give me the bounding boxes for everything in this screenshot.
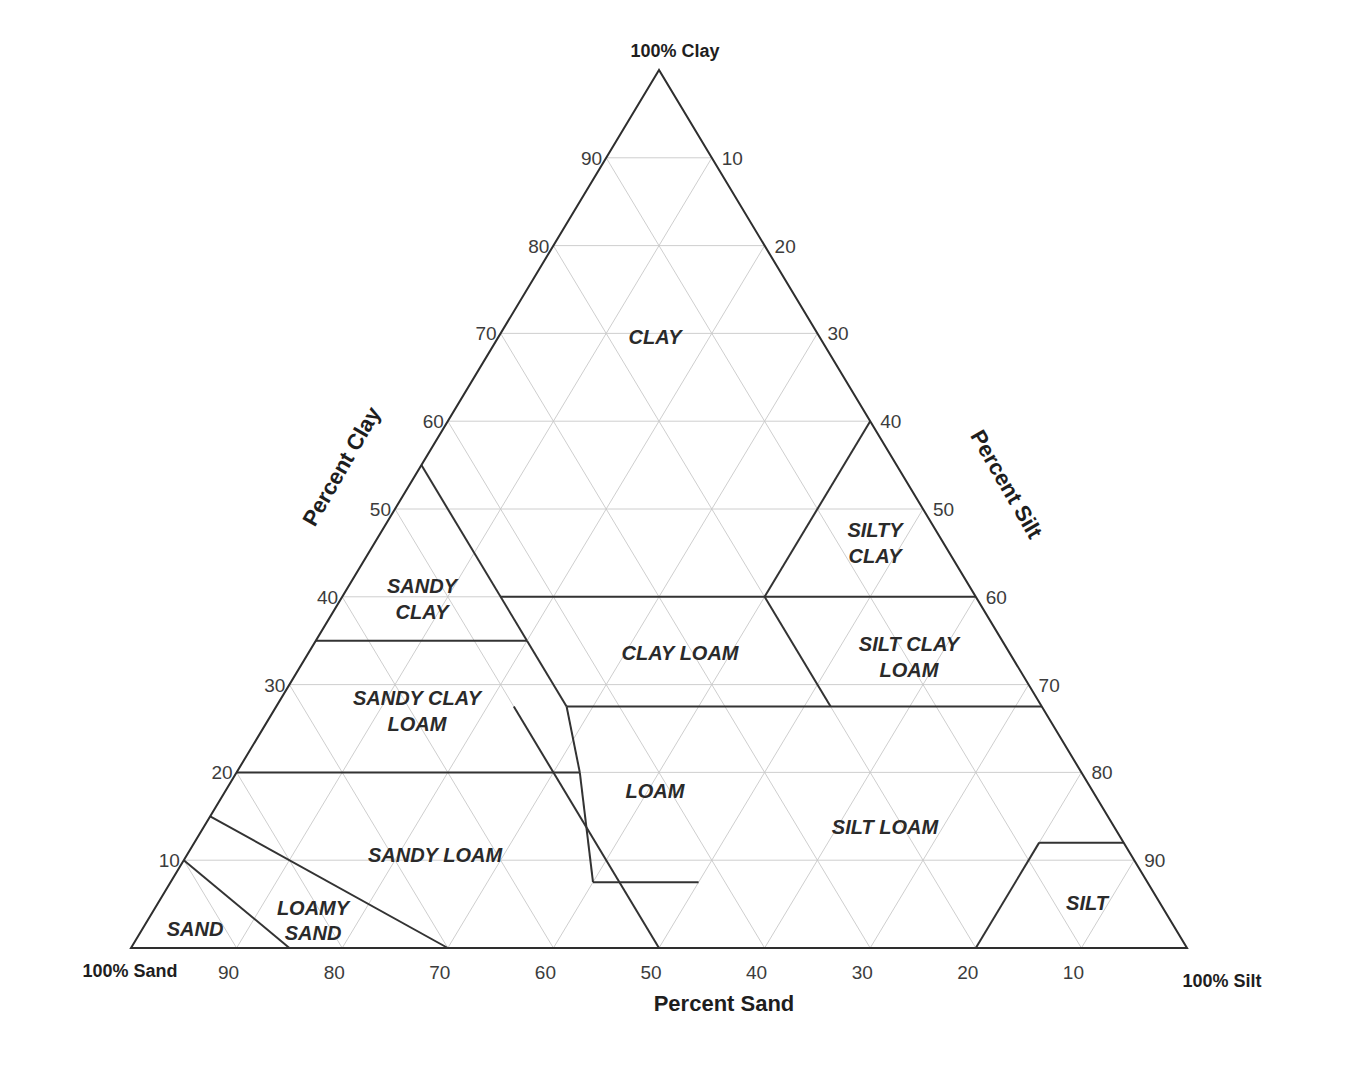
region-label-clay-loam: CLAY LOAM <box>621 642 739 664</box>
tick-sand: 50 <box>640 962 661 983</box>
region-label-silt-clay-loam: SILT CLAYLOAM <box>859 633 961 681</box>
tick-clay: 50 <box>370 499 391 520</box>
corner-label-clay: 100% Clay <box>630 41 719 61</box>
grid-line-sand <box>501 333 871 948</box>
tick-silt: 30 <box>827 323 848 344</box>
tick-sand: 90 <box>218 962 239 983</box>
soil-texture-triangle: 1020304050607080901020304050607080909080… <box>0 0 1349 1087</box>
class-boundary <box>765 597 831 707</box>
tick-clay: 40 <box>317 587 338 608</box>
tick-clay: 60 <box>423 411 444 432</box>
tick-clay: 30 <box>264 675 285 696</box>
region-labels: CLAY SILTYCLAY SANDYCLAY CLAY LOAM SILT … <box>167 326 1110 944</box>
tick-sand: 70 <box>429 962 450 983</box>
tick-silt: 60 <box>986 587 1007 608</box>
region-label-sandy-clay: SANDYCLAY <box>387 575 459 623</box>
tick-silt: 40 <box>880 411 901 432</box>
region-label-sandy-clay-loam: SANDY CLAYLOAM <box>353 687 483 735</box>
class-boundary <box>976 843 1039 948</box>
tick-sand: 60 <box>535 962 556 983</box>
region-label-loamy-sand: LOAMYSAND <box>277 897 351 944</box>
tick-silt: 10 <box>722 148 743 169</box>
tick-clay: 80 <box>528 236 549 257</box>
tick-sand: 80 <box>324 962 345 983</box>
region-label-silt: SILT <box>1066 892 1110 914</box>
class-boundary <box>527 641 567 707</box>
region-label-silty-clay: SILTYCLAY <box>847 519 904 567</box>
grid-lines <box>184 158 1134 948</box>
region-label-sandy-loam: SANDY LOAM <box>368 844 503 866</box>
region-label-loam: LOAM <box>626 780 686 802</box>
class-boundary <box>567 707 580 773</box>
tick-clay: 70 <box>475 323 496 344</box>
tick-silt: 70 <box>1039 675 1060 696</box>
corner-label-silt: 100% Silt <box>1182 971 1261 991</box>
tick-sand: 30 <box>852 962 873 983</box>
region-label-clay: CLAY <box>629 326 684 348</box>
tick-sand: 10 <box>1063 962 1084 983</box>
axis-title-sand: Percent Sand <box>654 991 795 1016</box>
tick-clay: 90 <box>581 148 602 169</box>
tick-clay: 10 <box>159 850 180 871</box>
region-label-sand: SAND <box>167 918 224 940</box>
corner-label-sand: 100% Sand <box>82 961 177 981</box>
tick-silt: 80 <box>1091 762 1112 783</box>
tick-clay: 20 <box>211 762 232 783</box>
tick-silt: 50 <box>933 499 954 520</box>
tick-labels: 1020304050607080901020304050607080909080… <box>159 148 1166 983</box>
tick-silt: 20 <box>775 236 796 257</box>
tick-sand: 20 <box>957 962 978 983</box>
class-boundary <box>514 707 659 948</box>
region-label-silt-loam: SILT LOAM <box>832 816 940 838</box>
tick-silt: 90 <box>1144 850 1165 871</box>
axis-title-silt: Percent Silt <box>965 426 1048 544</box>
tick-sand: 40 <box>746 962 767 983</box>
